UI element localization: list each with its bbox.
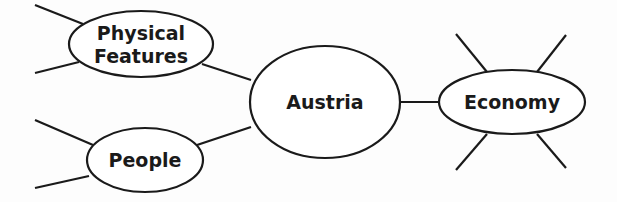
blank-branch-line-people	[35, 120, 93, 145]
edge-people-austria	[197, 127, 251, 145]
node-physical-features: PhysicalFeatures	[69, 11, 213, 77]
node-physical-features-label: Physical	[97, 22, 185, 44]
blank-branch-line-economy	[456, 34, 487, 72]
edge-physical-features-austria	[202, 64, 251, 80]
blank-branch-line-economy	[537, 35, 566, 72]
blank-branch-line-people	[35, 176, 89, 188]
blank-branch-line-economy	[456, 134, 487, 170]
concept-map: AustriaPhysicalFeaturesPeopleEconomy	[0, 0, 617, 202]
blank-branch-line-economy	[537, 134, 566, 168]
concept-map-canvas: AustriaPhysicalFeaturesPeopleEconomy	[0, 0, 617, 202]
node-economy-label: Economy	[464, 91, 561, 113]
node-people: People	[87, 128, 203, 192]
node-physical-features-label: Features	[94, 45, 188, 67]
node-austria: Austria	[250, 46, 400, 158]
blank-branch-line-physical-features	[35, 5, 83, 24]
node-people-label: People	[109, 149, 182, 171]
node-economy: Economy	[439, 70, 585, 134]
node-austria-label: Austria	[286, 91, 363, 113]
blank-branch-line-physical-features	[35, 62, 79, 73]
